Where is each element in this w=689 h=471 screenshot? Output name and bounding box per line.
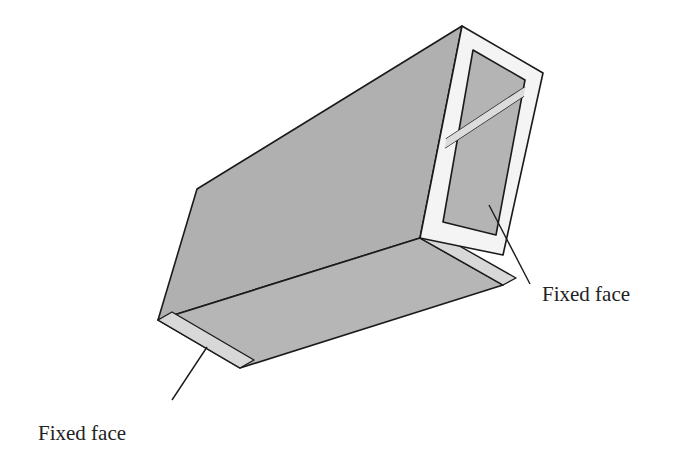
fixed-face-label-near: Fixed face bbox=[38, 421, 126, 446]
fixed-face-label-far: Fixed face bbox=[542, 282, 630, 307]
beam-diagram bbox=[0, 0, 689, 471]
leader-line-near bbox=[172, 347, 207, 400]
